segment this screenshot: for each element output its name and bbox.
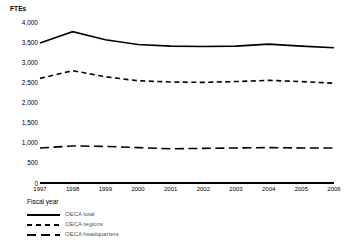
x-tick-label: 1997 [33, 186, 46, 193]
legend-swatch [27, 234, 60, 236]
x-tick-label: 2005 [295, 186, 308, 193]
x-tick-label: 2001 [164, 186, 177, 193]
legend-label: OECA headquarters [65, 231, 119, 238]
x-tick-label: 2006 [327, 186, 340, 193]
legend-swatch [27, 224, 60, 226]
x-tick-label: 2004 [262, 186, 275, 193]
series-line [40, 146, 334, 149]
x-tick-label: 2002 [197, 186, 210, 193]
x-tick-label: 1999 [99, 186, 112, 193]
legend-label: OECA regions [65, 221, 103, 228]
series-line [40, 32, 334, 48]
legend-swatch [27, 214, 60, 216]
x-axis-title: Fiscal year [27, 197, 58, 206]
x-tick-label: 2000 [131, 186, 144, 193]
plot-area [0, 0, 346, 250]
x-tick-label: 1998 [66, 186, 79, 193]
series-line [40, 71, 334, 83]
x-tick-label: 2003 [229, 186, 242, 193]
ftes-line-chart: FTEs 05001,0001,5002,0002,5003,0003,5004… [0, 0, 346, 250]
legend-label: OECA total [65, 211, 95, 218]
